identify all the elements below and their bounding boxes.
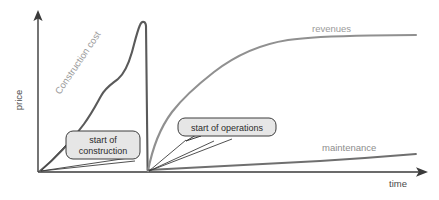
x-axis-title: time xyxy=(389,178,407,189)
construction-cost-label: Construction cost xyxy=(53,29,103,96)
construction-callout-leader-lower xyxy=(41,161,135,171)
revenues-label: revenues xyxy=(312,23,351,34)
maintenance-curve xyxy=(148,154,416,170)
chart-canvas: price time Construction cost revenues ma… xyxy=(0,0,439,200)
callout-start-of-construction[interactable]: start of construction xyxy=(41,131,140,171)
callout-start-of-operations[interactable]: start of operations xyxy=(149,118,276,171)
y-axis-title: price xyxy=(13,90,24,111)
operations-callout-line1: start of operations xyxy=(191,123,264,133)
construction-callout-line2: construction xyxy=(79,146,128,156)
chart-container: price time Construction cost revenues ma… xyxy=(0,0,439,200)
maintenance-label: maintenance xyxy=(322,142,376,153)
construction-callout-leader-upper xyxy=(41,143,68,171)
construction-callout-line1: start of xyxy=(89,135,117,145)
